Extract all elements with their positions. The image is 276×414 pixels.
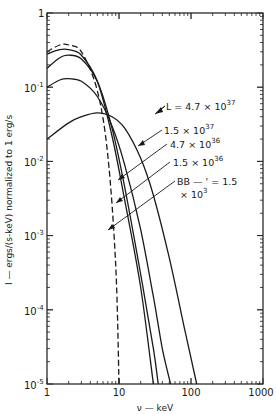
leader-bb	[108, 181, 175, 230]
y-tick-1e-4: 10-4	[24, 304, 44, 317]
label-l3: 4.7 × 1036	[170, 137, 221, 150]
curve-4	[47, 44, 119, 384]
y-tick-1e-2: 10-2	[24, 155, 44, 168]
spectrum-chart: 1 10 100 1000 10-5 10-4 10-3 10-2 10-1 1…	[0, 0, 276, 414]
arrow-l4	[116, 197, 123, 203]
spectrum-curves	[47, 44, 197, 384]
label-l1: L = 4.7 × 1037	[166, 99, 235, 112]
y-tick-1: 1	[38, 8, 44, 19]
label-bb-line2: × 103	[180, 187, 208, 200]
y-axis-title: I — ergs/(s-keV) normalized to 1 erg/s	[4, 115, 14, 285]
y-tick-1e-1: 10-1	[24, 81, 44, 94]
y-tick-1e-3: 10-3	[24, 229, 44, 242]
x-tick-1: 1	[44, 387, 50, 398]
x-tick-10: 10	[113, 387, 126, 398]
y-tick-labels: 10-5 10-4 10-3 10-2 10-1 1	[24, 8, 44, 391]
label-l2: 1.5 × 1037	[164, 123, 214, 136]
arrow-l3	[118, 174, 125, 180]
label-l4: 1.5 × 1036	[173, 155, 224, 168]
x-tick-1000: 1000	[248, 387, 273, 398]
x-tick-100: 100	[181, 387, 200, 398]
leader-arrowheads	[108, 107, 163, 230]
leader-l3	[118, 144, 167, 180]
y-tick-1e-5: 10-5	[24, 378, 44, 391]
label-bb-line1: BB — ' = 1.5	[177, 176, 237, 187]
x-axis-title: ν — keV	[137, 403, 174, 413]
arrow-l2	[138, 140, 145, 146]
